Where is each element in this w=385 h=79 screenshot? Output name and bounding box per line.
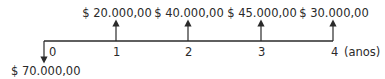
inflow-label-4: $ 30.000,00 — [299, 8, 369, 20]
tick-0: 0 — [49, 47, 56, 59]
inflow-label-2: $ 40.000,00 — [154, 8, 224, 20]
tick-4: 4 — [331, 47, 338, 59]
tick-1: 1 — [113, 47, 120, 59]
inflow-label-3: $ 45.000,00 — [227, 8, 297, 20]
outflow-label: $ 70.000,00 — [11, 66, 81, 78]
tick-3: 3 — [258, 47, 265, 59]
inflow-label-1: $ 20.000,00 — [82, 8, 152, 20]
period-unit-label: (anos) — [344, 47, 380, 59]
tick-2: 2 — [185, 47, 192, 59]
